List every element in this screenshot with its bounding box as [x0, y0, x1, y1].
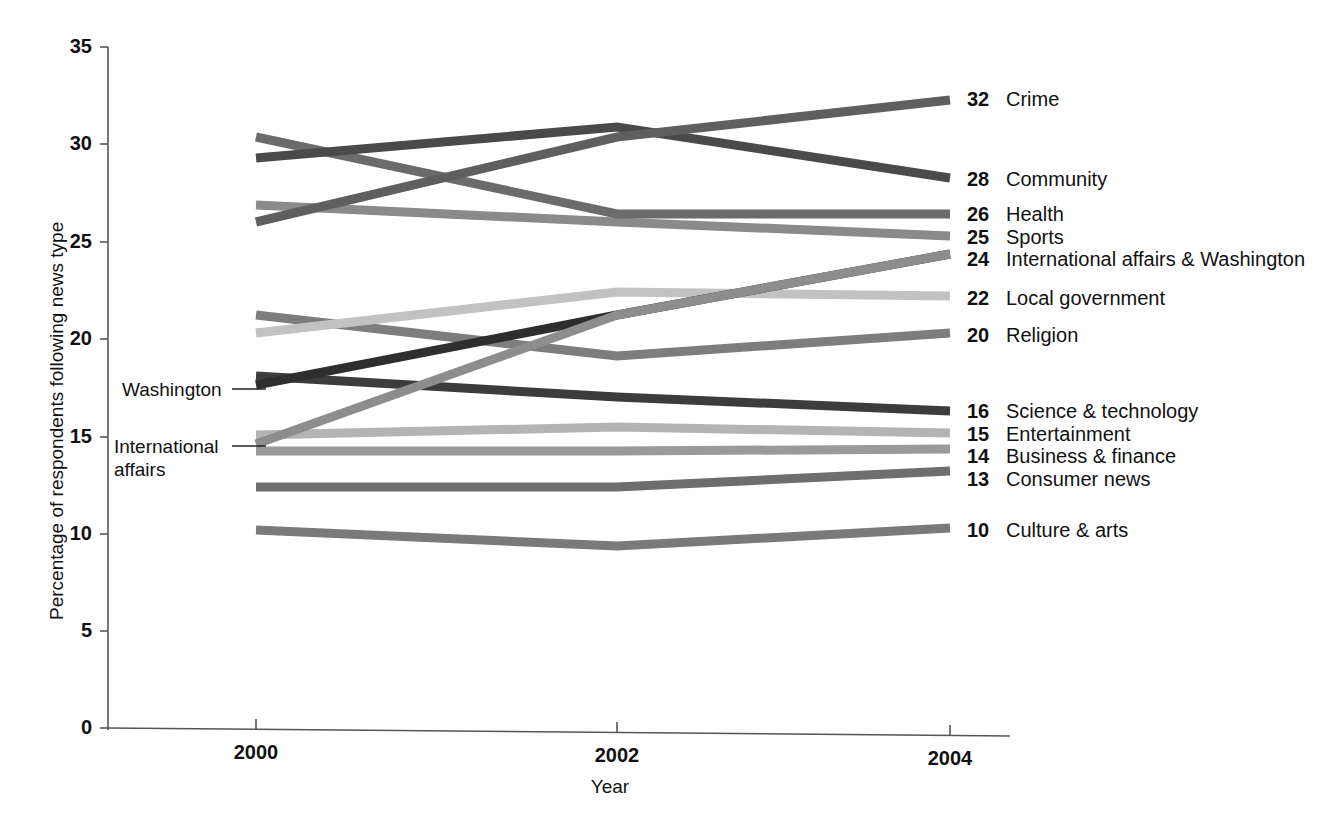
legend-label-consumer-news: Consumer news: [1006, 468, 1151, 491]
legend-label-local-government: Local government: [1006, 287, 1165, 310]
series-lines: [256, 100, 950, 546]
legend-label-science-technology: Science & technology: [1006, 400, 1198, 423]
legend-value-business-finance: 14: [967, 445, 997, 468]
series-line-culture-arts: [256, 528, 950, 546]
series-line-entertainment: [256, 427, 950, 435]
legend-item-community: 28Community: [967, 168, 1107, 194]
legend-label-crime: Crime: [1006, 88, 1059, 111]
x-axis-title: Year: [520, 776, 700, 798]
legend-label-culture-arts: Culture & arts: [1006, 519, 1128, 542]
callout-international-affairs-line1: International: [114, 436, 219, 457]
legend-value-consumer-news: 13: [967, 468, 997, 491]
legend-label-sports: Sports: [1006, 226, 1064, 249]
legend-value-community: 28: [967, 168, 997, 191]
legend-label-business-finance: Business & finance: [1006, 445, 1176, 468]
legend-item-consumer-news: 13Consumer news: [967, 468, 1151, 494]
x-tick-label-2000: 2000: [211, 741, 301, 764]
x-tick-label-2002: 2002: [572, 744, 662, 767]
legend-value-health: 26: [967, 203, 997, 226]
callout-washington: Washington: [122, 378, 222, 401]
legend-value-religion: 20: [967, 324, 997, 347]
legend-label-international-affairs-washington: International affairs & Washington: [1006, 248, 1305, 271]
callout-international-affairs: Internationalaffairs: [114, 435, 234, 481]
x-tick-label-2004: 2004: [905, 747, 995, 770]
legend-label-entertainment: Entertainment: [1006, 423, 1131, 446]
y-tick-label-5: 5: [48, 619, 92, 642]
y-tick-label-30: 30: [48, 132, 92, 155]
series-line-business-finance: [256, 449, 950, 451]
legend-value-local-government: 22: [967, 287, 997, 310]
legend-label-religion: Religion: [1006, 324, 1078, 347]
y-tick-label-35: 35: [48, 35, 92, 58]
legend-label-health: Health: [1006, 203, 1064, 226]
legend-item-local-government: 22Local government: [967, 287, 1165, 313]
y-tick-label-10: 10: [48, 522, 92, 545]
series-line-community: [256, 127, 950, 178]
legend-value-culture-arts: 10: [967, 519, 997, 542]
legend-item-crime: 32Crime: [967, 88, 1059, 114]
legend-value-science-technology: 16: [967, 400, 997, 423]
y-tick-label-0: 0: [48, 716, 92, 739]
series-line-international-affairs: [256, 254, 950, 444]
series-line-consumer-news: [256, 471, 950, 487]
legend-value-international-affairs-washington: 24: [967, 248, 997, 271]
legend-item-international-affairs-washington: 24International affairs & Washington: [967, 248, 1305, 274]
legend-value-entertainment: 15: [967, 423, 997, 446]
y-tick-label-25: 25: [48, 230, 92, 253]
legend-label-community: Community: [1006, 168, 1107, 191]
legend-value-sports: 25: [967, 226, 997, 249]
y-tick-label-20: 20: [48, 327, 92, 350]
legend-value-crime: 32: [967, 88, 997, 111]
callout-international-affairs-line2: affairs: [114, 459, 165, 480]
chart-page: Percentage of respondents following news…: [0, 0, 1328, 827]
legend-item-culture-arts: 10Culture & arts: [967, 519, 1128, 545]
y-tick-label-15: 15: [48, 425, 92, 448]
legend-item-religion: 20Religion: [967, 324, 1078, 350]
